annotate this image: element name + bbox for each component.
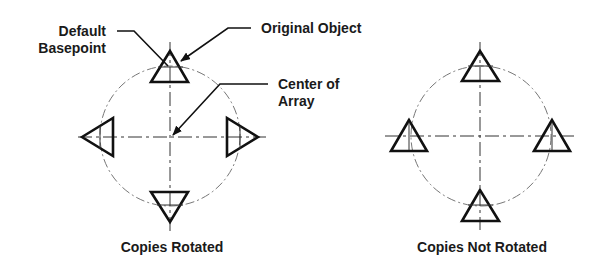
copies-not-rotated-caption: Copies Not Rotated	[417, 239, 547, 255]
default-basepoint-leader	[117, 31, 168, 66]
default-basepoint-label-line2: Basepoint	[38, 40, 106, 56]
default-basepoint-label-line1: Default	[59, 23, 107, 39]
original-object-label: Original Object	[261, 20, 362, 36]
polar-array-diagram: Default Basepoint Original Object Center…	[0, 0, 610, 267]
copies-rotated-diagram: Default Basepoint Original Object Center…	[38, 20, 361, 255]
center-of-array-label-line1: Center of	[278, 76, 340, 92]
original-object-leader	[181, 28, 251, 61]
copies-not-rotated-diagram: Copies Not Rotated	[385, 42, 576, 255]
copies-rotated-caption: Copies Rotated	[121, 239, 224, 255]
center-of-array-label-line2: Array	[278, 93, 315, 109]
center-of-array-leader	[173, 84, 268, 135]
